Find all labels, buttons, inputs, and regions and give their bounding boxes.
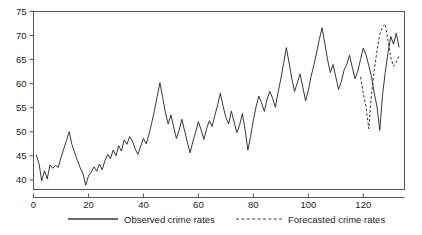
- y-axis-tick-label: 45: [16, 150, 27, 161]
- y-axis-tick-label: 55: [16, 102, 27, 113]
- legend-label-observed: Observed crime rates: [124, 214, 215, 225]
- y-axis-tick-label: 65: [16, 54, 27, 65]
- legend-label-forecast: Forecasted crime rates: [288, 214, 385, 225]
- y-axis-tick-label: 70: [16, 30, 27, 41]
- crime-rates-line-chart: 4045505560657075 020406080100120 Observe…: [0, 0, 422, 235]
- x-axis-tick-label: 60: [193, 199, 204, 210]
- x-axis-tick-label: 80: [248, 199, 259, 210]
- x-axis-tick-label: 40: [138, 199, 149, 210]
- y-axis-tick-group: 4045505560657075: [16, 6, 34, 185]
- chart-legend: Observed crime rates Forecasted crime ra…: [68, 214, 385, 225]
- x-axis-tick-label: 0: [31, 199, 36, 210]
- y-axis-tick-label: 60: [16, 78, 27, 89]
- y-axis-tick-label: 50: [16, 126, 27, 137]
- x-axis-tick-label: 20: [83, 199, 94, 210]
- x-axis-tick-group: 020406080100120: [31, 194, 405, 210]
- y-axis-tick-label: 40: [16, 174, 27, 185]
- crime-rates-chart-figure: 4045505560657075 020406080100120 Observe…: [0, 0, 422, 235]
- series-line-observed: [36, 28, 399, 185]
- series-line-forecast: [361, 24, 399, 129]
- x-axis-tick-label: 100: [300, 199, 316, 210]
- x-axis-tick-label: 120: [355, 199, 371, 210]
- y-axis-tick-label: 75: [16, 6, 27, 17]
